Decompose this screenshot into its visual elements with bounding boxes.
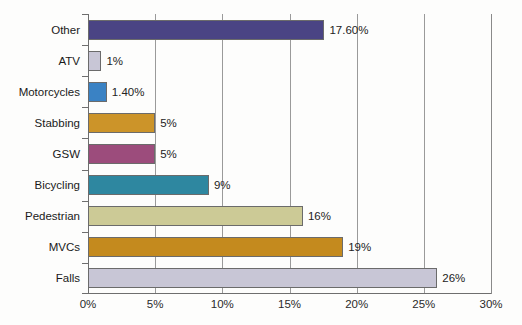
bar-atv[interactable]: [88, 51, 101, 71]
bar-mvcs[interactable]: [88, 237, 343, 257]
y-axis-category-labels: OtherATVMotorcyclesStabbingGSWBicyclingP…: [0, 14, 80, 294]
category-label-row: Bicycling: [0, 170, 80, 201]
y-axis-tick: [82, 263, 88, 264]
bar-other[interactable]: [88, 20, 324, 40]
bar-value-label: 1.40%: [107, 86, 145, 98]
bar-row: 1.40%: [88, 76, 491, 107]
category-label-row: Falls: [0, 263, 80, 294]
bar-row: 1%: [88, 45, 491, 76]
y-axis-tick: [82, 232, 88, 233]
bar-row: 5%: [88, 107, 491, 138]
bar-motorcycles[interactable]: [88, 82, 107, 102]
category-label-pedestrian: Pedestrian: [25, 210, 80, 222]
bar-value-label: 5%: [155, 117, 177, 129]
bar-row: 16%: [88, 201, 491, 232]
category-label-row: MVCs: [0, 232, 80, 263]
bar-bicycling[interactable]: [88, 175, 209, 195]
bar-row: 9%: [88, 170, 491, 201]
bar-value-label: 16%: [303, 210, 331, 222]
y-axis-tick: [82, 201, 88, 202]
bar-value-label: 9%: [209, 179, 231, 191]
bar-value-label: 26%: [437, 272, 465, 284]
category-label-gsw: GSW: [53, 148, 80, 160]
bar-value-label: 5%: [155, 148, 177, 160]
category-label-row: GSW: [0, 138, 80, 169]
x-tick-label-30pct: 30%: [479, 298, 502, 310]
category-label-row: Stabbing: [0, 107, 80, 138]
y-axis-tick: [82, 170, 88, 171]
y-axis-tick: [82, 45, 88, 46]
x-tick-label-20pct: 20%: [345, 298, 368, 310]
category-label-other: Other: [51, 24, 80, 36]
category-label-row: Other: [0, 14, 80, 45]
bar-chart: OtherATVMotorcyclesStabbingGSWBicyclingP…: [0, 0, 522, 325]
x-tick-label-15pct: 15%: [278, 298, 301, 310]
plot-area: 17.60%1%1.40%5%5%9%16%19%26%: [88, 14, 491, 294]
category-label-mvcs: MVCs: [49, 241, 80, 253]
gridline-30pct: [491, 14, 492, 294]
category-label-motorcycles: Motorcycles: [19, 86, 80, 98]
bar-value-label: 17.60%: [324, 24, 368, 36]
y-axis-tick: [82, 138, 88, 139]
bar-row: 17.60%: [88, 14, 491, 45]
category-label-falls: Falls: [56, 272, 80, 284]
bar-row: 19%: [88, 232, 491, 263]
bar-row: 26%: [88, 263, 491, 294]
x-tick-label-10pct: 10%: [211, 298, 234, 310]
bar-stabbing[interactable]: [88, 113, 155, 133]
category-label-row: Motorcycles: [0, 76, 80, 107]
x-tick-label-5pct: 5%: [147, 298, 164, 310]
y-axis-tick: [82, 14, 88, 15]
y-axis-tick: [82, 76, 88, 77]
x-axis-tick-labels: 0%5%10%15%20%25%30%: [88, 298, 491, 320]
bar-falls[interactable]: [88, 268, 437, 288]
category-label-stabbing: Stabbing: [35, 117, 80, 129]
category-label-atv: ATV: [58, 55, 80, 67]
bar-gsw[interactable]: [88, 144, 155, 164]
category-label-row: ATV: [0, 45, 80, 76]
bar-value-label: 19%: [343, 241, 371, 253]
category-label-row: Pedestrian: [0, 201, 80, 232]
x-tick-label-0pct: 0%: [80, 298, 97, 310]
x-tick-label-25pct: 25%: [412, 298, 435, 310]
category-label-bicycling: Bicycling: [35, 179, 80, 191]
bar-row: 5%: [88, 138, 491, 169]
y-axis-tick: [82, 107, 88, 108]
bar-pedestrian[interactable]: [88, 206, 303, 226]
bar-value-label: 1%: [101, 55, 123, 67]
x-axis-line: [88, 293, 491, 294]
